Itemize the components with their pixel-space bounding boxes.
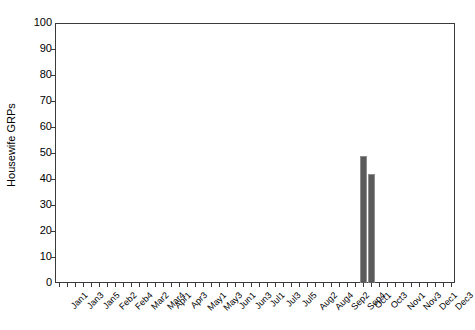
x-tick-mark xyxy=(403,283,404,287)
x-tick-mark xyxy=(163,283,164,287)
x-tick-mark xyxy=(219,283,220,287)
x-tick-mark xyxy=(195,283,196,287)
x-tick-label: Jan5 xyxy=(101,290,122,311)
x-tick-mark xyxy=(363,283,364,287)
y-tick-label: 40 xyxy=(40,172,52,185)
x-tick-mark xyxy=(91,283,92,287)
y-tick-label: 20 xyxy=(40,224,52,237)
x-tick-mark xyxy=(339,283,340,287)
bar[interactable] xyxy=(368,174,375,283)
x-tick-label: Jul1 xyxy=(268,290,287,309)
x-tick-mark xyxy=(155,283,156,287)
x-tick-mark xyxy=(115,283,116,287)
x-tick-mark xyxy=(371,283,372,287)
x-tick-label: Jul3 xyxy=(284,290,303,309)
x-tick-mark xyxy=(299,283,300,287)
x-tick-mark xyxy=(323,283,324,287)
x-tick-mark xyxy=(187,283,188,287)
x-tick-mark xyxy=(291,283,292,287)
y-tick-label: 10 xyxy=(40,250,52,263)
x-tick-mark xyxy=(67,283,68,287)
x-tick-mark xyxy=(107,283,108,287)
x-tick-mark xyxy=(171,283,172,287)
y-tick-label: 50 xyxy=(40,146,52,159)
x-tick-mark xyxy=(147,283,148,287)
x-tick-mark xyxy=(251,283,252,287)
x-tick-mark xyxy=(411,283,412,287)
x-tick-mark xyxy=(99,283,100,287)
y-tick-label: 0 xyxy=(46,276,52,289)
x-tick-mark xyxy=(131,283,132,287)
x-tick-mark xyxy=(235,283,236,287)
x-tick-mark xyxy=(283,283,284,287)
y-axis-title-text: Housewife GRPs xyxy=(5,103,17,187)
x-tick-mark xyxy=(443,283,444,287)
x-tick-mark xyxy=(331,283,332,287)
y-tick-label: 30 xyxy=(40,198,52,211)
x-tick-mark xyxy=(83,283,84,287)
y-tick-label: 80 xyxy=(40,68,52,81)
x-tick-mark xyxy=(259,283,260,287)
x-tick-mark xyxy=(307,283,308,287)
x-tick-mark xyxy=(347,283,348,287)
bar[interactable] xyxy=(360,156,367,283)
x-tick-mark xyxy=(59,283,60,287)
x-tick-mark xyxy=(227,283,228,287)
y-tick-label: 90 xyxy=(40,42,52,55)
y-tick-label: 70 xyxy=(40,94,52,107)
x-tick-mark xyxy=(435,283,436,287)
x-tick-mark xyxy=(179,283,180,287)
x-tick-label: Dec3 xyxy=(453,290,475,312)
x-tick-mark xyxy=(419,283,420,287)
x-tick-label: Jul5 xyxy=(300,290,319,309)
x-tick-mark xyxy=(75,283,76,287)
x-tick-mark xyxy=(451,283,452,287)
x-tick-mark xyxy=(387,283,388,287)
x-tick-mark xyxy=(123,283,124,287)
x-tick-mark xyxy=(427,283,428,287)
x-tick-mark xyxy=(379,283,380,287)
x-tick-mark xyxy=(139,283,140,287)
x-tick-mark xyxy=(203,283,204,287)
x-tick-mark xyxy=(315,283,316,287)
x-tick-label: Apr3 xyxy=(189,290,210,311)
x-tick-mark xyxy=(275,283,276,287)
x-tick-mark xyxy=(243,283,244,287)
x-tick-mark xyxy=(355,283,356,287)
y-tick-label: 100 xyxy=(34,16,52,29)
x-tick-mark xyxy=(211,283,212,287)
x-tick-label: Oct3 xyxy=(389,290,410,311)
y-tick-label: 60 xyxy=(40,120,52,133)
x-tick-mark xyxy=(267,283,268,287)
x-tick-mark xyxy=(395,283,396,287)
plot-area xyxy=(55,23,455,283)
y-axis-title: Housewife GRPs xyxy=(0,0,23,290)
